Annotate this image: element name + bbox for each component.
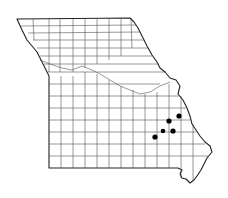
state-outline <box>17 18 212 183</box>
missouri-county-map <box>0 0 228 198</box>
occurrence-dot <box>176 113 181 118</box>
occurrence-dot <box>170 128 175 133</box>
occurrence-dot <box>152 134 157 139</box>
occurrence-dot <box>161 129 166 134</box>
map-svg <box>0 0 228 198</box>
occurrence-dot <box>166 118 171 123</box>
